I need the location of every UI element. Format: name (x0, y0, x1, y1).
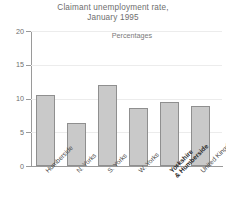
claimant-unemployment-bar-chart: Claimant unemployment rate, January 1995… (0, 0, 226, 219)
x-axis-label: N. Yorks (75, 152, 98, 175)
y-axis-tick-mark (26, 99, 31, 100)
y-axis-tick-mark (26, 31, 31, 32)
x-axis-label: S. Yorks (106, 152, 128, 174)
x-axis-label-line: N. Yorks (75, 152, 97, 174)
y-axis-tick-mark (26, 132, 31, 133)
x-axis-label-line: S. Yorks (106, 152, 128, 174)
x-axis-label-line: Humberside (44, 144, 74, 174)
y-axis-tick-mark (26, 65, 31, 66)
x-axis-label-line: W. Yorks (137, 151, 160, 174)
x-axis-label: Humberside (44, 144, 74, 174)
y-axis-tick-mark (26, 166, 31, 167)
x-axis-label: W. Yorks (137, 151, 160, 174)
x-axis-labels: HumbersideN. YorksS. YorksW. YorksYorksh… (0, 0, 226, 219)
